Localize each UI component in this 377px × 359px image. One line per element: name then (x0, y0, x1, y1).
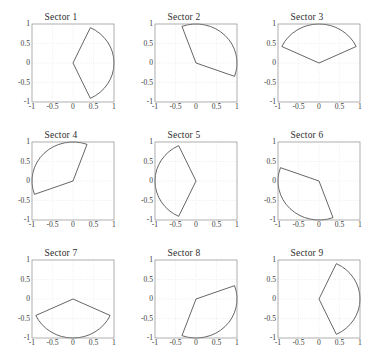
plot-area (155, 260, 237, 338)
sector-outline (32, 142, 87, 194)
y-tick-label: -0.5 (141, 197, 153, 205)
plot-area (155, 24, 237, 102)
sector-panel-6: Sector 610.50-0.5-1-1-0.500.51 (246, 130, 368, 250)
y-tick-label: 0.5 (144, 276, 154, 284)
x-axis-ticks: -1-0.500.51 (278, 339, 360, 351)
plot-area (32, 24, 114, 102)
x-axis-ticks: -1-0.500.51 (155, 339, 237, 351)
axes-svg (155, 260, 237, 338)
y-tick-label: 1 (149, 20, 153, 28)
sector-panel-1: Sector 110.50-0.5-1-1-0.500.51 (0, 12, 122, 132)
y-tick-label: -0.5 (141, 315, 153, 323)
sector-panel-5: Sector 510.50-0.5-1-1-0.500.51 (123, 130, 245, 250)
y-tick-label: 0.5 (21, 276, 31, 284)
y-tick-label: 0.5 (21, 158, 31, 166)
sector-outline (36, 299, 110, 338)
plot-area (32, 260, 114, 338)
axes-svg (278, 260, 360, 338)
y-tick-label: -0.5 (264, 197, 276, 205)
y-tick-label: 0.5 (267, 158, 277, 166)
axes-svg (32, 142, 114, 220)
x-axis-ticks: -1-0.500.51 (32, 339, 114, 351)
panel-title: Sector 5 (123, 130, 245, 140)
sector-outline (278, 168, 333, 220)
panel-title: Sector 8 (123, 248, 245, 258)
y-axis-ticks: 10.50-0.5-1 (123, 142, 153, 220)
sector-outline (182, 286, 237, 338)
y-tick-label: 1 (149, 138, 153, 146)
y-tick-label: 1 (26, 20, 30, 28)
plot-area (32, 142, 114, 220)
axes-svg (155, 24, 237, 102)
y-tick-label: 0.5 (267, 40, 277, 48)
panel-title: Sector 1 (0, 12, 122, 22)
panel-title: Sector 7 (0, 248, 122, 258)
sector-panel-9: Sector 910.50-0.5-1-1-0.500.51 (246, 248, 368, 359)
y-tick-label: 0 (272, 177, 276, 185)
y-tick-label: 0 (272, 59, 276, 67)
panel-title: Sector 4 (0, 130, 122, 140)
plot-area (278, 142, 360, 220)
y-axis-ticks: 10.50-0.5-1 (123, 24, 153, 102)
y-tick-label: 1 (272, 138, 276, 146)
panel-title: Sector 9 (246, 248, 368, 258)
plot-area (278, 24, 360, 102)
x-tick-label: 1 (348, 103, 372, 111)
y-tick-label: 0.5 (267, 276, 277, 284)
x-axis-ticks: -1-0.500.51 (155, 103, 237, 115)
y-tick-label: -0.5 (264, 315, 276, 323)
sector-outline (155, 146, 196, 217)
panel-title: Sector 6 (246, 130, 368, 140)
y-axis-ticks: 10.50-0.5-1 (0, 260, 30, 338)
y-tick-label: 0 (26, 295, 30, 303)
sector-grid-figure: Sector 110.50-0.5-1-1-0.500.51Sector 210… (0, 0, 377, 359)
y-tick-label: 1 (149, 256, 153, 264)
y-tick-label: -0.5 (18, 79, 30, 87)
y-tick-label: 0 (149, 59, 153, 67)
sector-outline (182, 24, 237, 76)
y-axis-ticks: 10.50-0.5-1 (0, 24, 30, 102)
y-tick-label: 0.5 (144, 40, 154, 48)
y-tick-label: 0.5 (144, 158, 154, 166)
y-axis-ticks: 10.50-0.5-1 (246, 142, 276, 220)
panel-title: Sector 2 (123, 12, 245, 22)
y-tick-label: 1 (26, 138, 30, 146)
y-axis-ticks: 10.50-0.5-1 (246, 24, 276, 102)
y-tick-label: 0 (26, 177, 30, 185)
y-tick-label: -0.5 (141, 79, 153, 87)
sector-outline (319, 264, 360, 335)
sector-panel-8: Sector 810.50-0.5-1-1-0.500.51 (123, 248, 245, 359)
axes-svg (32, 24, 114, 102)
sector-outline (73, 28, 114, 99)
y-axis-ticks: 10.50-0.5-1 (123, 260, 153, 338)
x-tick-label: 1 (348, 221, 372, 229)
y-tick-label: 0 (149, 177, 153, 185)
x-axis-ticks: -1-0.500.51 (32, 221, 114, 233)
x-axis-ticks: -1-0.500.51 (278, 221, 360, 233)
x-axis-ticks: -1-0.500.51 (278, 103, 360, 115)
y-tick-label: -0.5 (264, 79, 276, 87)
sector-panel-3: Sector 310.50-0.5-1-1-0.500.51 (246, 12, 368, 132)
y-tick-label: 0 (272, 295, 276, 303)
y-tick-label: -0.5 (18, 315, 30, 323)
y-tick-label: 1 (26, 256, 30, 264)
plot-area (155, 142, 237, 220)
sector-panel-4: Sector 410.50-0.5-1-1-0.500.51 (0, 130, 122, 250)
x-tick-label: 1 (348, 339, 372, 347)
axes-svg (155, 142, 237, 220)
y-axis-ticks: 10.50-0.5-1 (0, 142, 30, 220)
y-tick-label: 1 (272, 20, 276, 28)
plot-area (278, 260, 360, 338)
panel-title: Sector 3 (246, 12, 368, 22)
axes-svg (278, 24, 360, 102)
y-axis-ticks: 10.50-0.5-1 (246, 260, 276, 338)
sector-panel-7: Sector 710.50-0.5-1-1-0.500.51 (0, 248, 122, 359)
y-tick-label: 0.5 (21, 40, 31, 48)
y-tick-label: 0 (149, 295, 153, 303)
y-tick-label: 1 (272, 256, 276, 264)
x-axis-ticks: -1-0.500.51 (32, 103, 114, 115)
axes-svg (32, 260, 114, 338)
sector-panel-2: Sector 210.50-0.5-1-1-0.500.51 (123, 12, 245, 132)
y-tick-label: -0.5 (18, 197, 30, 205)
y-tick-label: 0 (26, 59, 30, 67)
